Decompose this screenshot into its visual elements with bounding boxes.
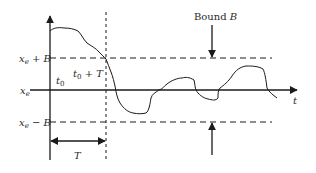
t0-plus-T-label: t0 + T bbox=[73, 68, 104, 81]
lower-bound-label: xe − B bbox=[19, 117, 51, 130]
bound-diagram: xe + B xe xe − B t0 t0 + T Bound B t T bbox=[0, 0, 316, 173]
bound-label: Bound B bbox=[194, 11, 237, 22]
t0-label: t0 bbox=[56, 75, 65, 88]
upper-bound-label: xe + B bbox=[19, 53, 51, 66]
period-label: T bbox=[74, 150, 82, 161]
center-label: xe bbox=[20, 85, 30, 98]
time-axis-label: t bbox=[293, 95, 298, 106]
